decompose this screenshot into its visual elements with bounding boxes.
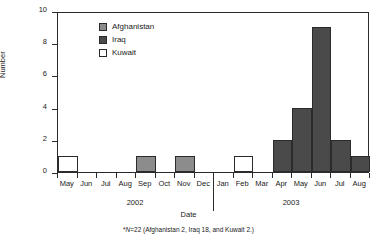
y-axis-tick-label: 8 xyxy=(43,38,47,46)
bar-jul-2003 xyxy=(331,140,351,172)
bar-may-2003 xyxy=(292,108,312,172)
year-separator xyxy=(213,173,214,211)
x-axis-tick-mark xyxy=(272,173,273,178)
y-axis-tick-label: 0 xyxy=(43,167,47,175)
y-axis-title: Number xyxy=(0,51,7,78)
y-axis-tick-label: 2 xyxy=(43,135,47,143)
legend-item-afghanistan: Afghanistan xyxy=(99,20,154,33)
legend-item-iraq: Iraq xyxy=(99,33,154,46)
x-axis-tick-mark xyxy=(311,173,312,178)
x-axis-tick-mark xyxy=(96,173,97,178)
bar-nov-2002 xyxy=(175,156,195,172)
bar-jun-2003 xyxy=(312,27,332,172)
bar-feb-2003 xyxy=(234,156,254,172)
legend-label-iraq: Iraq xyxy=(112,35,126,44)
x-axis-tick-mark xyxy=(174,173,175,178)
x-axis-title: Date xyxy=(0,210,377,219)
x-axis-tick-mark xyxy=(252,173,253,178)
bar-apr-2003 xyxy=(273,140,293,172)
x-axis-tick-mark xyxy=(77,173,78,178)
y-axis-tick-label: 10 xyxy=(39,6,47,14)
bar-sep-2002 xyxy=(136,156,156,172)
legend-label-kuwait: Kuwait xyxy=(112,48,136,57)
legend-item-kuwait: Kuwait xyxy=(99,46,154,59)
footnote: *N=22 (Afghanistan 2, Iraq 18, and Kuwai… xyxy=(0,226,377,234)
year-label-2002: 2002 xyxy=(115,198,155,207)
legend-swatch-afghanistan xyxy=(99,23,107,31)
x-axis-tick-mark xyxy=(369,173,370,178)
x-axis-tick-mark xyxy=(135,173,136,178)
x-axis-tick-mark xyxy=(350,173,351,178)
legend-swatch-iraq xyxy=(99,36,107,44)
y-axis-tick-label: 6 xyxy=(43,70,47,78)
bar-aug-2003 xyxy=(351,156,371,172)
year-label-2003: 2003 xyxy=(271,198,311,207)
footnote-text: =22 (Afghanistan 2, Iraq 18, and Kuwait … xyxy=(130,226,254,233)
legend: AfghanistanIraqKuwait xyxy=(99,20,154,59)
x-axis-tick-mark xyxy=(57,173,58,178)
x-axis-tick-mark xyxy=(330,173,331,178)
x-axis-tick-mark xyxy=(291,173,292,178)
plot-area: AfghanistanIraqKuwait xyxy=(57,12,369,173)
x-axis-tick-mark xyxy=(233,173,234,178)
legend-swatch-kuwait xyxy=(99,49,107,57)
x-axis-tick-label: Aug xyxy=(345,179,373,188)
x-axis-tick-mark xyxy=(155,173,156,178)
bar-may-2002 xyxy=(58,156,78,172)
x-axis-tick-mark xyxy=(194,173,195,178)
y-axis-tick-label: 4 xyxy=(43,103,47,111)
legend-label-afghanistan: Afghanistan xyxy=(112,22,154,31)
bar-chart: Number 0246810 AfghanistanIraqKuwait May… xyxy=(0,0,377,238)
x-axis-tick-mark xyxy=(116,173,117,178)
